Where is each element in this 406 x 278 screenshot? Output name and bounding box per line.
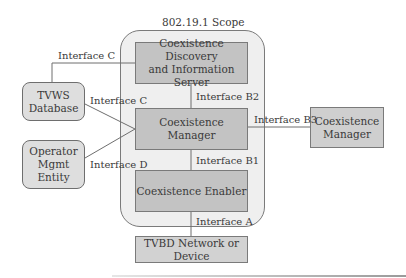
tvws-label-line2: Database [29, 102, 79, 114]
operator-label-line3: Entity [37, 171, 69, 183]
tvws-label-line1: TVWS [37, 89, 70, 101]
tvbd-label-line2: Device [173, 250, 209, 262]
tvbd-label-line1: TVBD Network or [144, 237, 239, 249]
interface-c-mid-label: Interface C [90, 95, 147, 107]
external-manager-label-line2: Manager [323, 128, 371, 140]
coexistence-enabler-label: Coexistence Enabler [137, 185, 247, 198]
interface-d-label: Interface D [90, 159, 148, 171]
bottom-rule [112, 275, 406, 277]
coexistence-manager-label: Coexistence Manager [136, 116, 247, 142]
coexistence-discovery-information-server: Coexistence Discoveryand Information Ser… [135, 42, 248, 84]
external-manager-label-line1: Coexistence [315, 115, 380, 127]
coexistence-enabler-node: Coexistence Enabler [135, 170, 248, 212]
interface-b2-label: Interface B2 [196, 91, 259, 103]
operator-mgmt-entity-node: OperatorMgmtEntity [22, 140, 85, 189]
interface-a-label: Interface A [196, 216, 253, 228]
cdis-label-line2: and Information Server [148, 63, 234, 88]
tvbd-network-device-node: TVBD Network orDevice [135, 236, 248, 263]
interface-b3-label: Interface B3 [254, 114, 317, 126]
coexistence-manager-node: Coexistence Manager [135, 108, 248, 150]
interface-c-top-label: Interface C [58, 50, 115, 62]
operator-label-line2: Mgmt [38, 158, 70, 170]
interface-b1-label: Interface B1 [196, 155, 259, 167]
operator-label-line1: Operator [29, 145, 77, 157]
cdis-label-line1: Coexistence Discovery [159, 37, 224, 62]
external-coexistence-manager-node: CoexistenceManager [310, 107, 384, 148]
tvws-database-node: TVWSDatabase [22, 82, 85, 121]
